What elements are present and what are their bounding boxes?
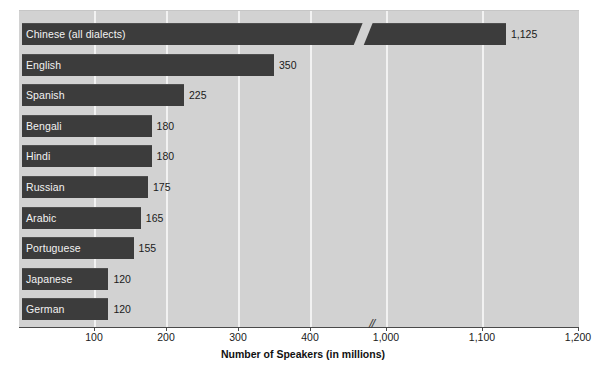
tick-label-400: 400 bbox=[301, 331, 319, 343]
plot-area: Chinese (all dialects)1,125English350Spa… bbox=[19, 10, 579, 327]
tick-label-1100: 1,100 bbox=[469, 331, 495, 343]
bar-category-label: Portuguese bbox=[26, 237, 81, 259]
bar-row: Russian175 bbox=[19, 176, 579, 198]
bar-row: English350 bbox=[19, 54, 579, 76]
bar-category-label: Japanese bbox=[26, 268, 72, 290]
bar-value-label: 155 bbox=[139, 237, 157, 259]
bar-value-label: 120 bbox=[113, 268, 131, 290]
tick-label-1000: 1,000 bbox=[373, 331, 399, 343]
tick-label-300: 300 bbox=[229, 331, 247, 343]
bar-category-label: Spanish bbox=[26, 84, 65, 106]
bar-category-label: Hindi bbox=[26, 145, 50, 167]
bar-chart: Chinese (all dialects)1,125English350Spa… bbox=[0, 0, 606, 375]
bar-row: Chinese (all dialects)1,125 bbox=[19, 23, 579, 45]
bar-category-label: German bbox=[26, 298, 65, 320]
tick-label-1200: 1,200 bbox=[565, 331, 591, 343]
bar-row: Spanish225 bbox=[19, 84, 579, 106]
bar-row: Hindi180 bbox=[19, 145, 579, 167]
bar-value-label: 1,125 bbox=[511, 23, 537, 45]
bar-value-label: 225 bbox=[189, 84, 207, 106]
bar-row: German120 bbox=[19, 298, 579, 320]
bar-category-label: Chinese (all dialects) bbox=[26, 23, 126, 45]
bar-row: Japanese120 bbox=[19, 268, 579, 290]
bar-category-label: Russian bbox=[26, 176, 65, 198]
bar-row: Portuguese155 bbox=[19, 237, 579, 259]
bar-value-label: 350 bbox=[279, 54, 297, 76]
bar-category-label: Bengali bbox=[26, 115, 62, 137]
x-axis-title: Number of Speakers (in millions) bbox=[0, 348, 606, 360]
bar-value-label: 180 bbox=[157, 115, 175, 137]
bar-value-label: 180 bbox=[157, 145, 175, 167]
tick-label-100: 100 bbox=[85, 331, 103, 343]
bar-value-label: 165 bbox=[146, 207, 164, 229]
x-axis-line bbox=[19, 327, 579, 328]
bar-value-label: 175 bbox=[153, 176, 171, 198]
axis-break-icon: // bbox=[369, 318, 387, 330]
bar-value-label: 120 bbox=[113, 298, 131, 320]
bar-category-label: English bbox=[26, 54, 61, 76]
tick-label-200: 200 bbox=[157, 331, 175, 343]
bar-row: Arabic165 bbox=[19, 207, 579, 229]
bar-row: Bengali180 bbox=[19, 115, 579, 137]
bar-category-label: Arabic bbox=[26, 207, 56, 229]
